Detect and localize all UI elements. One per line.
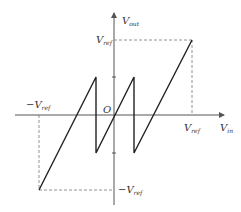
x-pos-ref-label: Vref [184,122,202,135]
y-axis-label: Vout [122,15,140,27]
y-pos-ref-label: Vref [96,34,114,47]
y-neg-ref-label: −Vref [118,184,144,197]
origin-label: O [103,104,111,115]
x-neg-ref-label: −Vref [26,99,52,112]
transfer-characteristic-diagram: Vout Vin O Vref −Vref Vref −Vref [0,0,241,212]
x-axis-label: Vin [220,122,233,134]
